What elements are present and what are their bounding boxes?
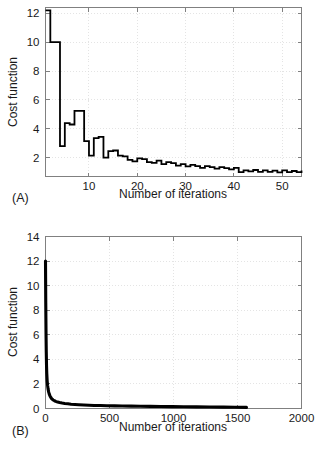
- chart-svg-b: 050010001500200002468101214 Number of it…: [0, 226, 321, 452]
- svg-text:4: 4: [33, 353, 40, 365]
- svg-text:10: 10: [27, 36, 40, 48]
- svg-text:8: 8: [33, 65, 39, 77]
- svg-text:50: 50: [276, 180, 289, 192]
- gridlines-a: [46, 8, 302, 177]
- svg-text:6: 6: [33, 94, 39, 106]
- cost-function-curve-a: [46, 10, 302, 172]
- cost-function-curve-b: [46, 261, 247, 407]
- svg-text:0: 0: [33, 403, 39, 415]
- svg-text:10: 10: [83, 180, 96, 192]
- svg-text:4: 4: [33, 123, 40, 135]
- svg-text:2: 2: [33, 152, 39, 164]
- chart-panel-b: 050010001500200002468101214 Number of it…: [0, 226, 321, 452]
- y-axis-label-b: Cost function: [6, 287, 20, 357]
- svg-text:40: 40: [227, 180, 240, 192]
- svg-text:10: 10: [27, 280, 40, 292]
- svg-text:1500: 1500: [225, 412, 251, 424]
- x-axis-label-b: Number of iterations: [119, 420, 227, 434]
- tick-labels-a: 102030405024681012: [27, 7, 289, 191]
- gridlines-b: [46, 237, 302, 409]
- chart-panel-a: 102030405024681012 Number of iterations …: [0, 0, 321, 226]
- svg-text:12: 12: [27, 7, 40, 19]
- svg-text:12: 12: [27, 255, 40, 267]
- panel-letter-a: (A): [12, 191, 29, 205]
- tick-labels-b: 050010001500200002468101214: [27, 231, 315, 424]
- ticks-a: [46, 8, 302, 177]
- svg-text:6: 6: [33, 329, 39, 341]
- svg-text:500: 500: [100, 412, 119, 424]
- plot-frame-b: [46, 237, 302, 409]
- svg-text:8: 8: [33, 304, 39, 316]
- panel-letter-b: (B): [12, 424, 29, 438]
- x-axis-label-a: Number of iterations: [119, 187, 227, 201]
- y-axis-label-a: Cost function: [6, 57, 20, 127]
- chart-svg-a: 102030405024681012 Number of iterations …: [0, 0, 321, 226]
- svg-text:2: 2: [33, 378, 39, 390]
- svg-text:0: 0: [42, 412, 48, 424]
- svg-text:2000: 2000: [289, 412, 315, 424]
- figure-container: 102030405024681012 Number of iterations …: [0, 0, 321, 452]
- plot-frame-a: [46, 8, 302, 177]
- ticks-b: [46, 237, 302, 409]
- svg-text:14: 14: [27, 231, 40, 243]
